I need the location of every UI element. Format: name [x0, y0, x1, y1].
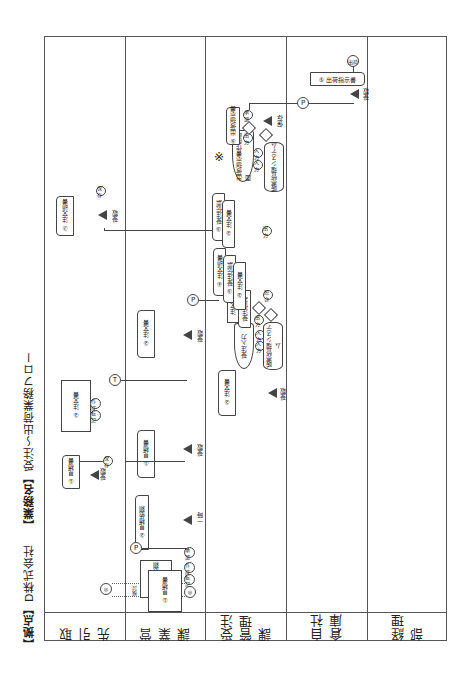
- connector-line: [249, 103, 299, 104]
- ichiji-triangle-icon: [183, 515, 192, 525]
- juryo-label-soko: 受取: [361, 88, 370, 100]
- connector-line: [249, 103, 250, 110]
- kigou-out-circle-2: 出力: [262, 226, 272, 236]
- kigou-out-circle: 出力: [254, 315, 264, 325]
- lane-label-eigyo: 営業課: [125, 613, 205, 641]
- lane-divider: [367, 36, 368, 641]
- hozon-triangle-icon: [263, 116, 272, 126]
- receive-triangle-icon-eigyo-2: [183, 330, 192, 340]
- tenki-circle: 転記: [90, 410, 101, 421]
- lane-label-juchu-kanri: 受注管理課: [205, 613, 286, 641]
- connector-line: [309, 103, 354, 104]
- receive-triangle-icon-juchu: [268, 388, 277, 398]
- connector-line: [104, 230, 226, 231]
- lane-label-jisha-soko: 自社倉庫: [286, 613, 367, 641]
- page-title: 【拠点】 D株式会社 【業務名】 受注～出荷業務フロー: [22, 330, 38, 650]
- receive-triangle-icon-eigyo: [183, 444, 192, 454]
- shukka-circle: 出荷: [347, 55, 359, 67]
- connector-p-icon-2: P: [130, 542, 142, 554]
- note-mark: ※: [214, 150, 224, 164]
- doc-shukka-shiji-juchu: ⑤ 出荷指示書: [226, 107, 240, 145]
- hozon-label: 保存: [275, 115, 284, 127]
- kentou-label: 検討: [130, 586, 137, 596]
- connector-line: [127, 380, 187, 381]
- lane-divider: [125, 36, 126, 641]
- connector-line: [125, 461, 185, 462]
- doc-chumonsho-a: ② 注文書: [233, 262, 246, 310]
- connector-line: [199, 300, 219, 301]
- shonin-circle: 承認: [184, 547, 195, 558]
- doc-chumonsho-torihiki: ② 注文書: [61, 380, 91, 432]
- location-label: 【拠点】: [22, 602, 38, 650]
- doc-shukka-shiji-soko: ⑤ 出荷指示書: [310, 72, 365, 86]
- connector-t-icon: T: [109, 374, 121, 386]
- sakusei-circle-eigyo: 作成: [184, 562, 195, 573]
- juryo-label-eigyo-2: 受取: [195, 330, 204, 342]
- kigou-in-circle-4: 入力: [253, 160, 263, 170]
- lane-divider: [286, 36, 287, 641]
- doc-chumon-ukesho-torihiki: ⑦ 注文請書: [56, 196, 74, 236]
- connector-line: [142, 548, 187, 549]
- hozon-circle-2: 保存: [96, 186, 106, 196]
- lane-divider: [205, 36, 206, 641]
- juryo-label: 受取: [98, 468, 107, 480]
- ichiji-label: 一時: [195, 512, 204, 524]
- hozon-circle: 保存: [103, 456, 113, 466]
- end-terminal-icon: ◎: [184, 586, 196, 598]
- connector-line: [80, 461, 103, 462]
- juryo-label-juchu: 受取: [278, 388, 287, 400]
- kigou-shonin-circle: 承認: [243, 110, 253, 120]
- connector-p-icon: P: [187, 294, 199, 306]
- juryo-label-eigyo: 受取: [195, 444, 204, 456]
- database-hanbai-kanri: 販売管理システム: [263, 322, 283, 370]
- receive-triangle-icon-soko: [350, 89, 359, 99]
- sakusei-circle: 作成: [90, 398, 101, 409]
- kigou-check-circle: 照合: [263, 290, 273, 300]
- start-terminal-icon: ◎: [100, 583, 112, 595]
- connector-line: [353, 67, 354, 72]
- business-label: 【業務名】: [22, 471, 38, 531]
- doc-mitsumorisho-torihiki: ① 見積書: [62, 455, 80, 489]
- business-name: 受注～出荷業務フロー: [22, 351, 38, 471]
- lane-label-torihikisaki: 取引先: [44, 613, 125, 641]
- connector-p-icon-soko: P: [297, 97, 309, 109]
- location-name: D株式会社: [22, 545, 38, 602]
- receive-triangle-icon-2: [98, 210, 107, 220]
- doc-chumonsho-b: ② 注文書: [222, 200, 235, 248]
- doc-chumonsho-eigyo: ② 注文書: [137, 310, 155, 358]
- doc-mitsumorisho-eigyo: ① 見積書: [137, 430, 155, 478]
- juryo-label-2: 受取: [110, 210, 119, 222]
- doc-chumonsho-juchu: ② 注文書: [218, 370, 236, 416]
- lane-label-keiri: 経理部: [367, 613, 447, 641]
- tenki-circle-eigyo: 転記: [184, 574, 195, 585]
- database-hanbai-kanri-2: 販売管理システム: [264, 142, 284, 192]
- kigou-in-circle-3: 入力: [253, 148, 263, 158]
- doc-mitsumorisho-stack: ① 見積書: [148, 570, 182, 612]
